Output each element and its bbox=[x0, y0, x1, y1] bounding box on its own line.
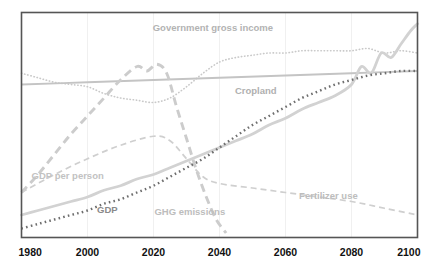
chart-plot-area: Government gross incomeCroplandGDP per p… bbox=[0, 0, 445, 276]
series-label-ghg-emissions: GHG emissions bbox=[154, 206, 225, 217]
series-label-gdp: GDP bbox=[97, 204, 118, 215]
series-label-government-gross-income: Government gross income bbox=[153, 22, 273, 33]
series-label-fertilizer-use: Fertilizer use bbox=[299, 190, 358, 201]
x-axis-tick-1980: 1980 bbox=[19, 246, 43, 258]
x-axis-tick-2080: 2080 bbox=[340, 246, 364, 258]
x-axis-tick-2000: 2000 bbox=[76, 246, 100, 258]
x-axis-tick-2040: 2040 bbox=[208, 246, 232, 258]
chart-container: Government gross incomeCroplandGDP per p… bbox=[0, 0, 445, 276]
series-label-cropland: Cropland bbox=[235, 85, 277, 96]
x-axis-tick-2100: 2100 bbox=[397, 246, 421, 258]
series-label-gdp-per-person: GDP per person bbox=[32, 170, 104, 181]
x-axis-tick-2060: 2060 bbox=[274, 246, 298, 258]
x-axis-tick-2020: 2020 bbox=[142, 246, 166, 258]
